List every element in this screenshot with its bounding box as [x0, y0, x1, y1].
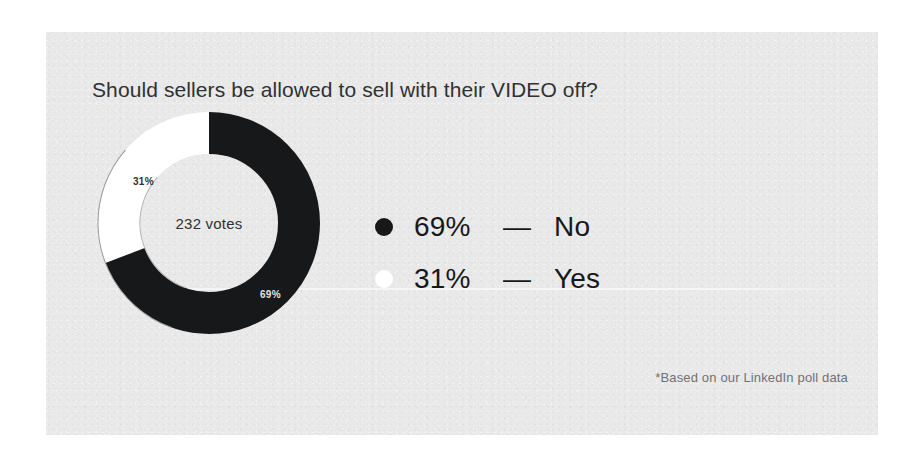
donut-chart: 31% 69% 232 votes — [97, 111, 321, 335]
legend-dash-no: — — [492, 211, 542, 243]
source-footnote: *Based on our LinkedIn poll data — [655, 370, 848, 385]
donut-label-yes: 31% — [133, 176, 154, 187]
dark-dot-icon — [375, 218, 393, 236]
legend-percent-yes: 31% — [414, 263, 492, 295]
donut-label-no: 69% — [260, 289, 281, 300]
light-dot-icon — [375, 270, 393, 288]
chart-legend: 69% — No 31% — Yes — [375, 212, 600, 294]
legend-dash-yes: — — [492, 263, 542, 295]
legend-percent-no: 69% — [414, 211, 492, 243]
poll-question-title: Should sellers be allowed to sell with t… — [92, 77, 598, 103]
poll-card: Should sellers be allowed to sell with t… — [46, 32, 878, 435]
legend-item-yes: 31% — Yes — [375, 264, 600, 294]
legend-item-no: 69% — No — [375, 212, 600, 242]
legend-label-no: No — [554, 211, 590, 243]
donut-chart-svg: 31% 69% — [97, 111, 321, 335]
legend-label-yes: Yes — [554, 263, 600, 295]
